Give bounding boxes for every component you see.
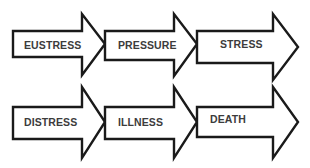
label-distress: DISTRESS bbox=[24, 117, 77, 128]
label-stress: STRESS bbox=[220, 39, 263, 50]
flow-diagram bbox=[0, 0, 310, 168]
label-eustress: EUSTRESS bbox=[24, 40, 81, 51]
label-pressure: PRESSURE bbox=[118, 40, 177, 51]
label-illness: ILLNESS bbox=[118, 117, 163, 128]
label-death: DEATH bbox=[210, 114, 246, 125]
